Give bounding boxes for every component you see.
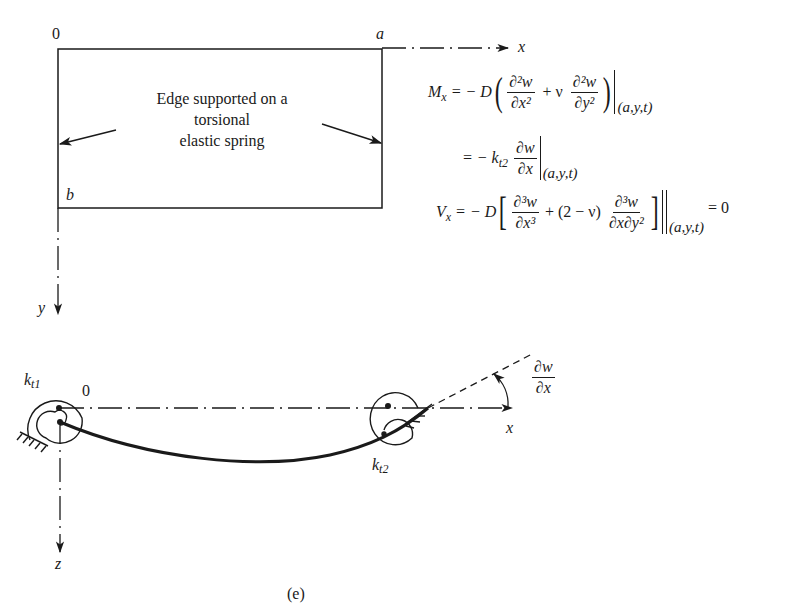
spring1-sub: t1 [31, 377, 40, 391]
mx-term2-num: ∂²w [571, 73, 598, 93]
vx-term1: ∂³w ∂x³ [512, 193, 539, 232]
torsional-spring-right-icon [370, 393, 432, 445]
eval-bar [540, 136, 541, 180]
annotation-line-3: elastic spring [124, 130, 320, 151]
vx-rhs: = 0 [708, 199, 729, 217]
mx2-eq-sign: = − k [462, 149, 499, 167]
mx2-den: ∂x [516, 159, 535, 178]
mx2-frac: ∂w ∂x [514, 139, 537, 178]
mx-term1: ∂²w ∂x² [507, 73, 534, 112]
annotation-arrow-left [60, 130, 116, 144]
annotation-arrow-right [322, 124, 381, 143]
origin-label-top: 0 [52, 26, 60, 42]
vx-term1-num: ∂³w [512, 193, 539, 213]
annotation-line-1: Edge supported on a [124, 88, 320, 109]
left-bracket: [ [499, 192, 507, 232]
left-paren: ( [494, 72, 502, 112]
right-paren: ) [603, 72, 611, 112]
vx-term2-num: ∂³w [613, 193, 640, 213]
deflected-beam [60, 408, 428, 462]
slope-num: ∂w [532, 358, 555, 378]
vx-term2-den: ∂x∂y² [607, 213, 646, 232]
mx-lhs-sub: x [441, 90, 446, 105]
corner-b-label: b [66, 187, 74, 203]
mx-term1-num: ∂²w [507, 73, 534, 93]
x-axis-label-bottom: x [506, 420, 513, 436]
spring1-label: kt1 [24, 372, 40, 388]
mx2-eval-at: (a,y,t) [543, 165, 578, 182]
equation-mx-spring: = − kt2 ∂w ∂x (a,y,t) [462, 136, 578, 180]
eval-double-bar [662, 190, 667, 234]
right-bracket: ] [650, 192, 658, 232]
slope-den: ∂x [534, 378, 553, 397]
vx-eq-sign: = − D [455, 203, 496, 221]
panel-label: (e) [287, 586, 305, 602]
x-axis-label-top: x [518, 39, 525, 55]
vx-eval-at: (a,y,t) [669, 219, 704, 236]
spring2-label: kt2 [372, 457, 388, 473]
slope-frac: ∂w ∂x [532, 358, 555, 397]
y-axis-label: y [38, 300, 45, 316]
spring2-sub: t2 [379, 462, 388, 476]
mx-eq-sign: = − D [451, 83, 492, 101]
vx-term1-den: ∂x³ [513, 213, 537, 232]
mx-term2-den: ∂y² [573, 93, 597, 112]
mx-eval-at: (a,y,t) [617, 99, 652, 116]
mx-plus-nu: + ν [543, 83, 563, 101]
eval-bar [614, 70, 615, 114]
edge-support-annotation: Edge supported on a torsional elastic sp… [124, 88, 320, 151]
vx-plus-coeff: + (2 − ν) [545, 203, 601, 221]
equation-mx: Mx = − D ( ∂²w ∂x² + ν ∂²w ∂y² ) (a,y,t) [428, 70, 652, 114]
slope-label: ∂w ∂x [530, 358, 557, 397]
mx2-num: ∂w [514, 139, 537, 159]
corner-a-label: a [376, 26, 384, 42]
slope-tangent-line [428, 353, 534, 408]
mx-term1-den: ∂x² [509, 93, 533, 112]
z-axis-label: z [55, 556, 61, 572]
origin-label-bottom: 0 [82, 383, 90, 399]
mx-term2: ∂²w ∂y² [571, 73, 598, 112]
slope-angle-arc [494, 374, 508, 407]
vx-term2: ∂³w ∂x∂y² [607, 193, 646, 232]
equation-vx: Vx = − D [ ∂³w ∂x³ + (2 − ν) ∂³w ∂x∂y² ]… [436, 190, 729, 234]
vx-lhs-sub: x [446, 210, 451, 225]
figure-drawing [0, 0, 806, 615]
annotation-line-2: torsional [124, 109, 320, 130]
mx2-k-sub: t2 [499, 156, 508, 171]
vx-lhs: V [436, 203, 446, 221]
mx-lhs: M [428, 83, 441, 101]
